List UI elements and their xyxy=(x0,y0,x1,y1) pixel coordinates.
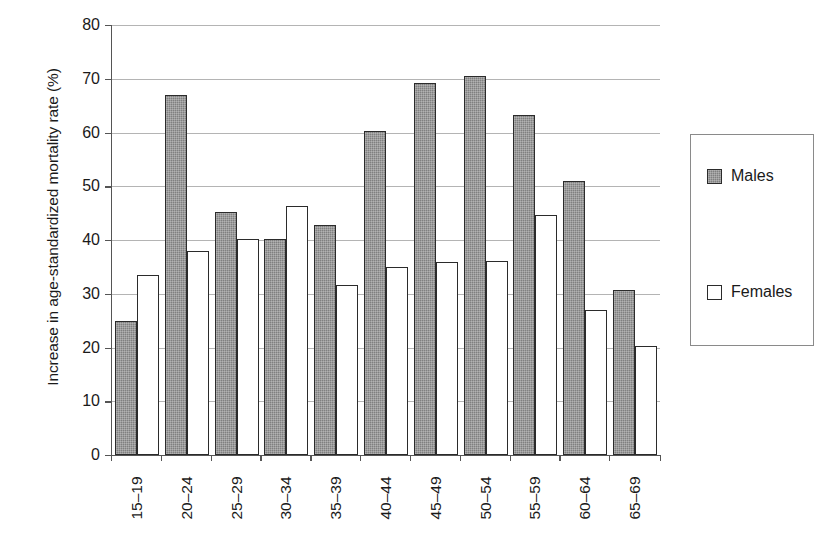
x-tick-label-cell: 30–34 xyxy=(261,462,311,540)
x-tick-mark xyxy=(510,455,511,461)
plot-area: 01020304050607080 xyxy=(112,25,660,455)
y-tick-label: 60 xyxy=(82,124,100,142)
bar-males[interactable] xyxy=(215,212,237,455)
bar-males[interactable] xyxy=(115,321,137,455)
bar-group xyxy=(212,25,262,455)
x-tick-label-cell: 45–49 xyxy=(411,462,461,540)
bar-group xyxy=(162,25,212,455)
bar-group xyxy=(461,25,511,455)
x-tick-label-cell: 35–39 xyxy=(311,462,361,540)
x-tick-mark xyxy=(161,455,162,461)
bar-females[interactable] xyxy=(486,261,508,455)
x-tick-mark xyxy=(310,455,311,461)
x-tick-label-cell: 25–29 xyxy=(212,462,262,540)
y-tick-label: 80 xyxy=(82,16,100,34)
x-tick-label: 50–54 xyxy=(477,476,495,519)
y-tick-mark xyxy=(105,401,112,402)
x-tick-label-cell: 55–59 xyxy=(511,462,561,540)
x-tick-label-cell: 60–64 xyxy=(560,462,610,540)
bar-females[interactable] xyxy=(436,262,458,456)
bar-males[interactable] xyxy=(513,115,535,455)
y-tick-mark xyxy=(105,348,112,349)
bar-females[interactable] xyxy=(635,346,657,455)
x-tick-label-cell: 20–24 xyxy=(162,462,212,540)
bar-group xyxy=(112,25,162,455)
x-tick-mark xyxy=(111,455,112,461)
x-tick-label: 55–59 xyxy=(526,476,544,519)
bar-males[interactable] xyxy=(414,83,436,455)
y-tick-mark xyxy=(105,25,112,26)
y-tick-label: 0 xyxy=(91,446,100,464)
y-tick-label: 20 xyxy=(82,339,100,357)
x-tick-label: 25–29 xyxy=(228,476,246,519)
bar-males[interactable] xyxy=(165,95,187,455)
bar-females[interactable] xyxy=(137,275,159,455)
x-tick-label: 40–44 xyxy=(377,476,395,519)
legend-label-females: Females xyxy=(731,283,792,301)
males-swatch-icon xyxy=(707,169,722,184)
x-tick-label: 60–64 xyxy=(576,476,594,519)
bar-males[interactable] xyxy=(613,290,635,455)
x-tick-mark xyxy=(410,455,411,461)
bar-females[interactable] xyxy=(386,267,408,455)
bar-females[interactable] xyxy=(336,285,358,455)
x-tick-label: 20–24 xyxy=(178,476,196,519)
x-axis-tick-labels: 15–1920–2425–2930–3435–3940–4445–4950–54… xyxy=(112,462,660,540)
bar-group xyxy=(610,25,660,455)
x-tick-mark xyxy=(360,455,361,461)
y-tick-label: 50 xyxy=(82,177,100,195)
y-axis-title: Increase in age-standardized mortality r… xyxy=(44,7,62,447)
y-tick-label: 10 xyxy=(82,392,100,410)
bar-group xyxy=(311,25,361,455)
x-tick-label-cell: 65–69 xyxy=(610,462,660,540)
y-tick-label: 30 xyxy=(82,285,100,303)
legend-item-males[interactable]: Males xyxy=(707,167,774,185)
x-tick-label-cell: 15–19 xyxy=(112,462,162,540)
legend-label-males: Males xyxy=(731,167,774,185)
x-tick-label: 30–34 xyxy=(277,476,295,519)
bar-groups xyxy=(112,25,660,455)
chart-legend: Males Females xyxy=(690,134,814,346)
y-tick-mark xyxy=(105,294,112,295)
bar-males[interactable] xyxy=(464,76,486,455)
bar-males[interactable] xyxy=(364,131,386,455)
females-swatch-icon xyxy=(707,285,722,300)
bar-group xyxy=(560,25,610,455)
bar-females[interactable] xyxy=(187,251,209,455)
bar-males[interactable] xyxy=(314,225,336,455)
bar-group xyxy=(361,25,411,455)
bar-females[interactable] xyxy=(237,239,259,455)
bar-females[interactable] xyxy=(286,206,308,455)
bar-males[interactable] xyxy=(563,181,585,455)
x-tick-mark xyxy=(460,455,461,461)
y-tick-mark xyxy=(105,79,112,80)
bar-females[interactable] xyxy=(585,310,607,455)
y-tick-mark xyxy=(105,240,112,241)
legend-item-females[interactable]: Females xyxy=(707,283,792,301)
x-tick-label-cell: 50–54 xyxy=(461,462,511,540)
y-tick-label: 70 xyxy=(82,70,100,88)
bar-group xyxy=(511,25,561,455)
x-tick-label: 65–69 xyxy=(626,476,644,519)
y-tick-label: 40 xyxy=(82,231,100,249)
chart-page: Increase in age-standardized mortality r… xyxy=(0,0,832,543)
bar-group xyxy=(261,25,311,455)
x-tick-mark xyxy=(260,455,261,461)
x-tick-mark xyxy=(559,455,560,461)
x-tick-mark xyxy=(211,455,212,461)
x-tick-label: 15–19 xyxy=(128,476,146,519)
bar-males[interactable] xyxy=(264,239,286,455)
y-tick-mark xyxy=(105,186,112,187)
x-tick-label: 35–39 xyxy=(327,476,345,519)
x-tick-mark xyxy=(660,455,661,461)
y-tick-mark xyxy=(105,133,112,134)
bar-group xyxy=(411,25,461,455)
x-tick-label: 45–49 xyxy=(427,476,445,519)
x-tick-label-cell: 40–44 xyxy=(361,462,411,540)
x-tick-mark xyxy=(609,455,610,461)
bar-females[interactable] xyxy=(535,215,557,455)
